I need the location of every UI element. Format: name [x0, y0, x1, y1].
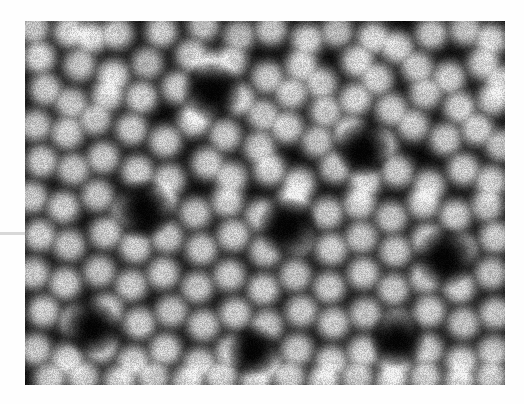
atomic-resolution-micrograph: [25, 21, 505, 385]
screenshot-viewport: [0, 0, 524, 404]
micrograph-canvas: [25, 21, 505, 385]
left-margin-scanline-artifact: [0, 232, 26, 235]
